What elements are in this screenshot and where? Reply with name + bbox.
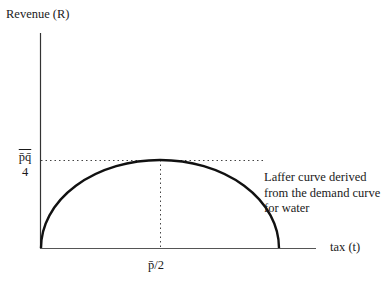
y-tick-numerator: p̄q̄ [14, 150, 36, 164]
x-tick-optimal-tax: p̄/2 [148, 258, 164, 273]
laffer-chart [0, 0, 388, 281]
y-tick-denominator: 4 [14, 164, 36, 180]
y-tick-max-revenue: p̄q̄ 4 [14, 150, 36, 180]
laffer-curve [41, 160, 279, 248]
curve-annotation: Laffer curve derived from the demand cur… [264, 170, 384, 217]
x-axis-label: tax (t) [330, 240, 360, 255]
y-axis-label: Revenue (R) [6, 7, 70, 22]
